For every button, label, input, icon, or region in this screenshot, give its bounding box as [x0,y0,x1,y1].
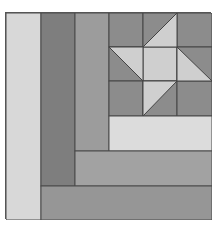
medium-column [75,13,109,151]
dark-column [41,13,75,186]
quilt-svg [6,13,212,220]
light-strip [109,116,212,151]
quilt-block [5,12,211,219]
medium-bar [75,151,212,186]
left-light-column [6,13,41,220]
star-block [109,13,212,116]
bottom-bar [41,186,212,220]
